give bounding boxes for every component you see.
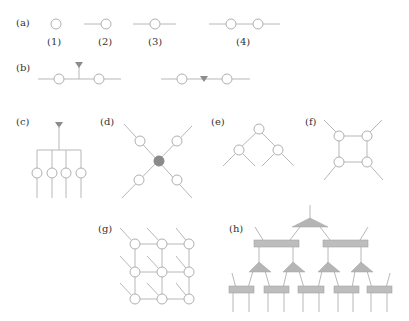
node-b3: [177, 74, 187, 84]
panel-h: (h): [229, 205, 392, 312]
node-b4: [222, 74, 232, 84]
node-a1: [51, 19, 61, 29]
sublabel-a1: (1): [47, 36, 61, 47]
rect-h-l4-3: [298, 286, 324, 293]
node-a3: [150, 19, 160, 29]
node-a2: [101, 19, 111, 29]
node-b1: [54, 74, 64, 84]
panel-label-d: (d): [100, 116, 114, 127]
rect-h-l4-1: [229, 286, 254, 293]
panel-e: (e): [211, 116, 294, 166]
panel-f: (f): [305, 116, 383, 180]
panel-label-c: (c): [16, 116, 30, 127]
triangle-h-l3-1: [249, 262, 271, 272]
panel-label-g: (g): [98, 223, 112, 234]
tensor-network-figure: (a) (1) (2) (3) (4) (b) (c): [0, 0, 409, 321]
panel-b: (b): [16, 62, 250, 84]
center-node-d: [154, 156, 164, 166]
panel-label-h: (h): [229, 223, 243, 234]
panel-a: (a) (1) (2) (3) (4): [16, 17, 280, 47]
panel-label-b: (b): [16, 62, 30, 73]
rect-h-l2-1: [254, 240, 299, 247]
triangle-h-l3-3: [318, 262, 340, 272]
node-b2: [94, 74, 104, 84]
rect-h-l4-4: [334, 286, 359, 293]
panel-g: (g): [98, 223, 194, 304]
sublabel-a3: (3): [148, 36, 162, 47]
node-a4-left: [226, 19, 236, 29]
panel-label-f: (f): [305, 116, 317, 127]
panel-label-a: (a): [16, 17, 30, 28]
panel-c: (c): [16, 116, 86, 198]
triangle-h-l3-4: [351, 262, 373, 272]
rect-h-l4-5: [367, 286, 392, 293]
sublabel-a4: (4): [236, 36, 250, 47]
sublabel-a2: (2): [98, 36, 112, 47]
panel-d: (d): [100, 116, 192, 198]
rect-h-l2-2: [323, 240, 368, 247]
triangle-b1: [75, 62, 83, 68]
rect-h-l4-2: [264, 286, 289, 293]
panel-label-e: (e): [211, 116, 225, 127]
triangle-h-top: [292, 218, 328, 227]
triangle-h-l3-2: [283, 262, 305, 272]
node-a4-right: [253, 19, 263, 29]
